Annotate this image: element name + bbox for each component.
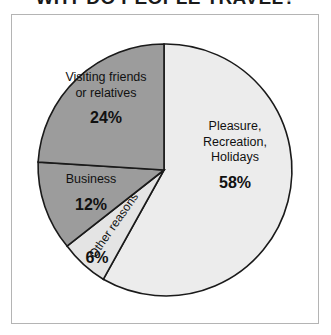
chart-page: WHY DO PEOPLE TRAVEL? Visiting friends o… bbox=[0, 0, 331, 335]
slice-label-visiting-friends-line2: or relatives bbox=[48, 86, 164, 102]
page-title: WHY DO PEOPLE TRAVEL? bbox=[0, 0, 331, 9]
slice-value-visiting-friends: 24% bbox=[48, 108, 164, 128]
slice-value-other-reasons-wrap: 6% bbox=[71, 248, 123, 268]
slice-value-pleasure: 58% bbox=[178, 173, 292, 193]
slice-value-other-reasons: 6% bbox=[71, 248, 123, 268]
slice-label-visiting-friends: Visiting friends or relatives 24% bbox=[48, 70, 164, 128]
slice-label-business-line1: Business bbox=[48, 172, 134, 188]
slice-label-visiting-friends-line1: Visiting friends bbox=[48, 70, 164, 86]
slice-label-pleasure-line2: Recreation, bbox=[178, 135, 292, 151]
slice-label-pleasure-line3: Holidays bbox=[178, 150, 292, 166]
slice-label-pleasure: Pleasure, Recreation, Holidays 58% bbox=[178, 119, 292, 193]
slice-label-pleasure-line1: Pleasure, bbox=[178, 119, 292, 135]
